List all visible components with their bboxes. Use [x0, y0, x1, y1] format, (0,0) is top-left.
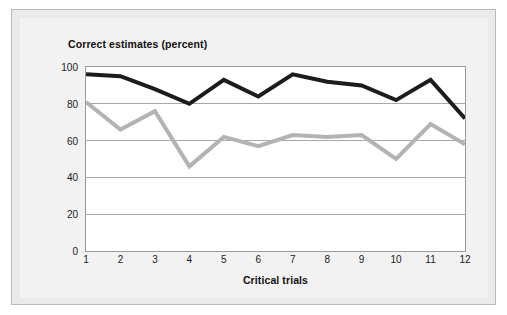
x-axis-tick-labels: 123456789101112	[85, 254, 466, 270]
x-tick-label: 7	[290, 254, 296, 265]
x-tick-label: 4	[187, 254, 193, 265]
x-tick-label: 9	[359, 254, 365, 265]
chart-panel: Correct estimates (percent) 020406080100…	[20, 18, 488, 298]
y-tick-label: 100	[61, 62, 78, 73]
x-tick-label: 8	[324, 254, 330, 265]
y-tick-label: 60	[67, 135, 78, 146]
x-tick-label: 1	[83, 254, 89, 265]
y-tick-label: 20	[67, 209, 78, 220]
y-tick-label: 0	[72, 246, 78, 257]
x-tick-label: 10	[391, 254, 402, 265]
y-axis-tick-labels: 020406080100	[48, 66, 82, 252]
x-tick-label: 11	[425, 254, 435, 265]
y-tick-label: 80	[67, 98, 78, 109]
series-line-black-series	[86, 74, 465, 118]
x-tick-label: 6	[255, 254, 261, 265]
y-tick-label: 40	[67, 172, 78, 183]
figure-card: Correct estimates (percent) 020406080100…	[11, 9, 496, 305]
chart-title: Correct estimates (percent)	[68, 38, 207, 50]
plot-area	[85, 66, 466, 252]
plot-svg	[86, 67, 465, 251]
x-axis-title: Critical trials	[85, 274, 466, 286]
x-tick-label: 2	[118, 254, 124, 265]
x-tick-label: 3	[152, 254, 158, 265]
series-line-gray-series	[86, 102, 465, 166]
x-tick-label: 5	[221, 254, 227, 265]
x-tick-label: 12	[459, 254, 470, 265]
